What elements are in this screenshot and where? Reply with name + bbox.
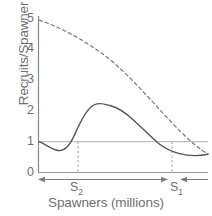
y-tick-label-1: 1 — [18, 134, 34, 148]
s1-left-arrowhead — [161, 177, 168, 182]
y-tick-label-0: 0 — [18, 165, 34, 179]
y-axis-title: Recruits/Spawner — [16, 0, 31, 124]
s2-left-arrowhead — [38, 177, 45, 182]
x-axis-title: Spawners (millions) — [0, 195, 212, 210]
solid-depensatory-curve — [39, 104, 208, 156]
dashed-recruitment-curve — [39, 20, 208, 154]
chart-figure: 5 4 3 2 1 0 S2 S1 Recruits/Spawner Spawn… — [0, 0, 212, 216]
